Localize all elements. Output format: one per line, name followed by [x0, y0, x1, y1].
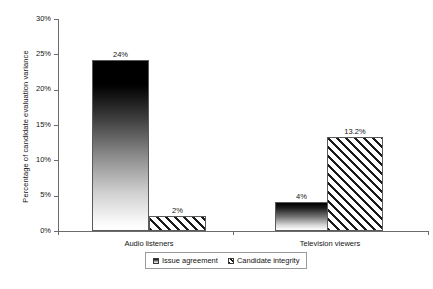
y-tick-label-20: 20% — [36, 84, 51, 93]
x-axis-line — [58, 231, 429, 232]
y-tick-15: 15% — [54, 125, 58, 126]
y-tick-label-30: 30% — [36, 14, 51, 23]
x-tick-group-divider — [233, 231, 234, 235]
bar-value-tv-issue-agreement: 4% — [296, 192, 307, 201]
bar-audio-candidate-integrity[interactable]: 2% — [149, 216, 206, 231]
legend-label-candidate-integrity: Candidate integrity — [237, 256, 300, 265]
bar-tv-candidate-integrity[interactable]: 13.2% — [327, 137, 383, 231]
legend-label-issue-agreement: Issue agreement — [162, 256, 218, 265]
y-tick-label-15: 15% — [36, 120, 51, 129]
bar-audio-issue-agreement[interactable]: 24% — [92, 60, 149, 231]
y-tick-label-5: 5% — [40, 190, 51, 199]
y-tick-label-0: 0% — [40, 226, 51, 235]
gradient-swatch-icon — [153, 258, 159, 264]
plot-area: 0% 5% 10% 15% 20% 25% 30% 24% 2% — [58, 19, 429, 232]
x-tick-end — [428, 231, 429, 235]
bar-value-audio-issue-agreement: 24% — [113, 50, 128, 59]
y-tick-5: 5% — [54, 196, 58, 197]
y-tick-10: 10% — [54, 160, 58, 161]
y-tick-label-10: 10% — [36, 155, 51, 164]
bar-value-tv-candidate-integrity: 13.2% — [344, 127, 365, 136]
legend-item-candidate-integrity[interactable]: Candidate integrity — [228, 256, 300, 265]
y-axis-line — [58, 19, 59, 232]
category-label-television-viewers: Television viewers — [300, 239, 360, 248]
y-tick-25: 25% — [54, 54, 58, 55]
chart-legend: Issue agreement Candidate integrity — [145, 252, 307, 269]
y-axis-title: Percentage of candidate evaluation varia… — [21, 22, 30, 232]
y-tick-20: 20% — [54, 90, 58, 91]
bar-value-audio-candidate-integrity: 2% — [172, 206, 183, 215]
legend-item-issue-agreement[interactable]: Issue agreement — [153, 256, 218, 265]
x-tick-start — [58, 231, 59, 235]
hatch-swatch-icon — [228, 258, 234, 264]
bar-chart-figure: Percentage of candidate evaluation varia… — [0, 0, 433, 289]
bar-tv-issue-agreement[interactable]: 4% — [275, 202, 328, 231]
y-tick-label-25: 25% — [36, 49, 51, 58]
category-label-audio-listeners: Audio listeners — [124, 239, 173, 248]
y-tick-30: 30% — [54, 19, 58, 20]
